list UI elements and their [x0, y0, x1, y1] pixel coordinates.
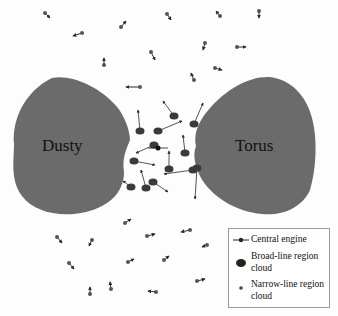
legend-label-narrow-line-2: cloud: [251, 291, 272, 302]
narrow-line-cloud: [126, 260, 130, 264]
dusty-label: Dusty: [42, 136, 83, 156]
central-engine: [156, 146, 161, 151]
central-engine-icon: [232, 234, 252, 246]
broad-line-cloud-icon: [232, 251, 252, 275]
narrow-line-cloud: [149, 50, 153, 54]
legend-label-narrow-line: Narrow-line region: [251, 279, 324, 290]
broad-line-cloud: [190, 120, 199, 127]
narrow-line-cloud: [109, 287, 113, 291]
narrow-line-cloud: [67, 261, 71, 265]
narrow-line-cloud: [154, 290, 158, 294]
broad-line-cloud: [130, 157, 139, 164]
broad-line-cloud: [136, 127, 145, 134]
broad-line-cloud: [170, 112, 179, 119]
narrow-line-cloud: [119, 25, 123, 29]
broad-line-cloud: [181, 149, 190, 156]
narrow-line-cloud: [80, 31, 84, 35]
narrow-line-cloud: [192, 78, 196, 82]
narrow-line-cloud: [90, 238, 94, 242]
narrow-line-cloud: [138, 85, 142, 89]
legend-item-central-engine: Central engine: [229, 234, 329, 246]
narrow-line-cloud: [165, 12, 169, 16]
torus-label: Torus: [235, 136, 273, 156]
narrow-line-cloud: [102, 63, 106, 67]
narrow-line-cloud: [88, 292, 92, 296]
narrow-line-cloud: [203, 41, 207, 45]
legend-label-central-engine: Central engine: [251, 234, 307, 245]
narrow-line-cloud: [43, 11, 47, 15]
narrow-line-cloud: [218, 14, 222, 18]
narrow-line-cloud: [123, 221, 127, 225]
legend: Central engine Broad-line region cloud N…: [228, 228, 330, 308]
broad-line-cloud: [193, 164, 202, 171]
narrow-line-cloud: [205, 243, 209, 247]
narrow-line-cloud: [213, 66, 217, 70]
legend-label-broad-line: Broad-line region: [251, 251, 318, 262]
broad-line-cloud: [165, 165, 174, 172]
legend-item-narrow-line-cloud: Narrow-line region cloud: [229, 279, 329, 303]
agn-unified-model-diagram: Dusty Torus Central engine Broad-line re…: [0, 0, 338, 316]
legend-label-broad-line-2: cloud: [251, 263, 272, 274]
narrow-line-cloud-icon: [232, 279, 252, 303]
narrow-line-cloud: [257, 9, 261, 13]
narrow-line-cloud: [55, 235, 59, 239]
narrow-line-cloud: [145, 234, 149, 238]
legend-item-broad-line-cloud: Broad-line region cloud: [229, 251, 329, 275]
narrow-line-cloud: [195, 279, 199, 283]
broad-line-cloud: [149, 178, 158, 185]
narrow-line-cloud: [235, 45, 239, 49]
narrow-line-cloud: [162, 258, 166, 262]
narrow-line-cloud: [188, 228, 192, 232]
broad-line-cloud: [154, 127, 163, 134]
broad-line-cloud: [127, 183, 136, 190]
broad-line-cloud: [142, 184, 151, 191]
